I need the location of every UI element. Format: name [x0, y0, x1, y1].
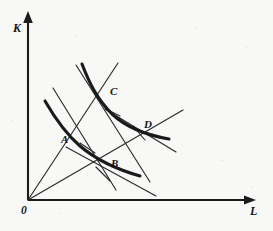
figure-canvas — [0, 0, 273, 231]
expansion-path-flat — [28, 110, 183, 200]
point-label-b: B — [111, 158, 118, 169]
outer-isoquant — [82, 64, 169, 139]
k-axis-label: K — [13, 22, 21, 34]
point-label-c: C — [110, 86, 117, 97]
isocost-through-B — [66, 147, 156, 196]
point-label-a: A — [61, 134, 68, 145]
isoquant-figure: K L 0 A B C D — [0, 0, 273, 231]
origin-label: 0 — [21, 205, 27, 217]
tangent-stub-group — [80, 109, 145, 181]
expansion-path-group — [28, 63, 183, 200]
expansion-path-steep — [28, 63, 118, 200]
inner-isoquant — [45, 101, 140, 176]
up-arrow-icon — [23, 11, 33, 23]
l-axis-label: L — [250, 205, 257, 217]
point-label-d: D — [144, 119, 152, 130]
